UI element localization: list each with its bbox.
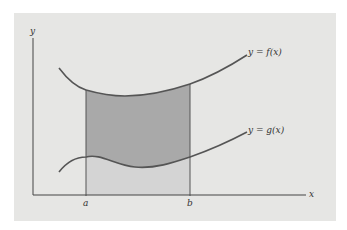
curve-f-label: y = f(x) xyxy=(248,48,282,57)
bound-b-label: b xyxy=(187,199,193,208)
y-axis-label: y xyxy=(30,27,35,36)
bound-a-label: a xyxy=(83,199,88,208)
curve-f xyxy=(59,55,247,96)
area-between-curves-diagram xyxy=(0,0,347,230)
x-axis-label: x xyxy=(309,190,314,199)
region-between-curves xyxy=(86,84,190,167)
curve-g-label: y = g(x) xyxy=(248,126,284,135)
